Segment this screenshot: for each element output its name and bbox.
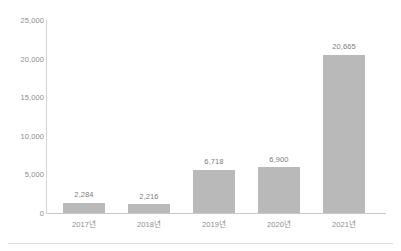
bar-2021[interactable] — [323, 55, 365, 213]
bar-slot: 20,665 — [323, 20, 365, 213]
bar-value-label: 2,216 — [120, 193, 178, 201]
bar-value-label: 2,284 — [55, 191, 113, 199]
y-axis-tick-label: 0 — [6, 210, 44, 218]
x-axis-line — [46, 213, 386, 214]
bar-value-label: 20,665 — [315, 43, 373, 51]
bar-2020[interactable] — [258, 167, 300, 213]
x-axis-label-2017: 2017년 — [55, 221, 113, 229]
y-axis-tick-label: 20,000 — [6, 56, 44, 64]
bar-slot: 2,284 — [63, 20, 105, 213]
bar-slot: 2,216 — [128, 20, 170, 213]
bar-2018[interactable] — [128, 204, 170, 213]
y-axis-tick-label: 25,000 — [6, 17, 44, 25]
x-axis-label-2019: 2019년 — [185, 221, 243, 229]
bottom-separator-rule — [8, 243, 393, 244]
y-axis-tick-label: 5,000 — [6, 171, 44, 179]
x-axis-label-2018: 2018년 — [120, 221, 178, 229]
x-axis-label-2020: 2020년 — [250, 221, 308, 229]
bar-value-label: 6,900 — [250, 156, 308, 164]
y-axis-tick-label: 15,000 — [6, 94, 44, 102]
x-axis-category-labels: 2017년 2018년 2019년 2020년 2021년 — [47, 221, 386, 235]
x-axis-label-2021: 2021년 — [315, 221, 373, 229]
bar-chart: 25,000 20,000 15,000 10,000 5,000 0 2,28… — [0, 0, 401, 251]
y-axis-tick-label: 10,000 — [6, 133, 44, 141]
bar-slot: 6,718 — [193, 20, 235, 213]
plot-area: 2,284 2,216 6,718 6,900 20,665 — [47, 20, 386, 213]
y-axis-tick-labels: 25,000 20,000 15,000 10,000 5,000 0 — [0, 0, 44, 251]
bar-2017[interactable] — [63, 203, 105, 213]
bar-2019[interactable] — [193, 170, 235, 213]
bar-value-label: 6,718 — [185, 158, 243, 166]
bar-slot: 6,900 — [258, 20, 300, 213]
